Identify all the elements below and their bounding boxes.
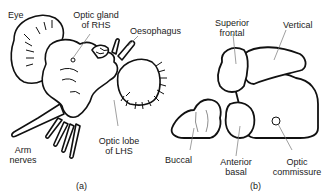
label-anterior-basal-line2: basal	[216, 167, 256, 177]
label-oesophagus: Oesophagus	[130, 26, 181, 36]
label-optic-lobe-line1: Optic lobe	[96, 136, 142, 146]
label-optic-lobe-line2: of LHS	[96, 146, 142, 156]
label-superior-frontal-line2: frontal	[210, 28, 254, 38]
label-optic-gland: Optic gland of RHS	[72, 10, 120, 30]
octopus-brain-figure: Eye Optic gland of RHS Oesophagus Arm ne…	[0, 0, 333, 194]
label-vertical: Vertical	[283, 20, 313, 30]
label-optic-gland-line2: of RHS	[72, 20, 120, 30]
label-optic-commissure: Optic commissure	[272, 157, 322, 177]
label-arm-nerves-line1: Arm	[6, 145, 40, 155]
caption-b: (b)	[250, 181, 261, 191]
label-superior-frontal-line1: Superior	[210, 18, 254, 28]
label-anterior-basal: Anterior basal	[216, 157, 256, 177]
label-eye: Eye	[8, 10, 24, 20]
label-superior-frontal: Superior frontal	[210, 18, 254, 38]
label-buccal: Buccal	[165, 155, 192, 165]
label-arm-nerves: Arm nerves	[6, 145, 40, 165]
label-arm-nerves-line2: nerves	[6, 155, 40, 165]
label-optic-commissure-line2: commissure	[272, 167, 322, 177]
label-optic-lobe: Optic lobe of LHS	[96, 136, 142, 156]
label-optic-gland-line1: Optic gland	[72, 10, 120, 20]
label-optic-commissure-line1: Optic	[272, 157, 322, 167]
label-anterior-basal-line1: Anterior	[216, 157, 256, 167]
caption-a: (a)	[76, 181, 87, 191]
